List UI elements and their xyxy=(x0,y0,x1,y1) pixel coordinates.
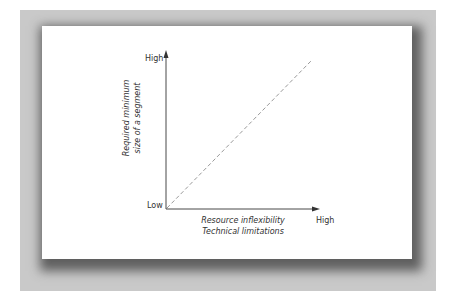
x-high-label: High xyxy=(316,216,334,225)
x-title-line2: Technical limitations xyxy=(198,226,288,237)
y-axis-title: Required minimum size of a segment xyxy=(121,70,149,166)
diagram-axes xyxy=(0,0,457,305)
trend-line xyxy=(167,61,311,208)
x-title-line1: Resource inflexibility xyxy=(198,215,288,226)
x-axis-title: Resource inflexibility Technical limitat… xyxy=(198,215,288,237)
y-title-line2: size of a segment xyxy=(132,70,143,166)
x-axis-arrow-icon xyxy=(312,207,320,212)
y-high-label: High xyxy=(145,54,163,63)
y-low-label: Low xyxy=(147,201,163,210)
y-axis-arrow-icon xyxy=(164,50,169,58)
y-title-line1: Required minimum xyxy=(121,70,132,166)
